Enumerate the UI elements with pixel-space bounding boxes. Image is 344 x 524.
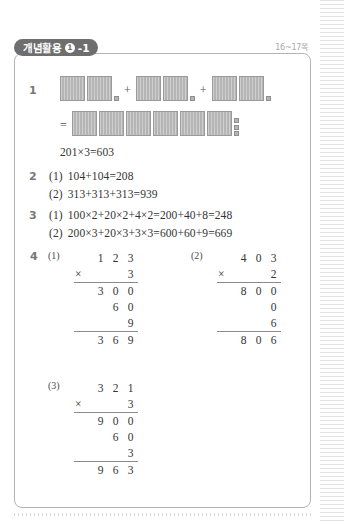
product-row: 3 6 9	[74, 332, 138, 349]
partial-product-row: 9 0 0	[74, 413, 138, 430]
problem-2-item-1: (1) 104+104=208	[49, 170, 134, 182]
problem-4-item-2-label: (2)	[191, 250, 203, 261]
operator-cell	[74, 250, 93, 266]
digit: 3	[123, 462, 138, 479]
hundred-block	[72, 111, 97, 136]
section-tab-label: 개념활용	[23, 40, 62, 55]
result-block-group	[72, 111, 239, 136]
multiplicand-row: 3 2 1	[74, 380, 138, 396]
digit: 3	[123, 396, 138, 413]
digit: 0	[108, 283, 123, 300]
problem-4-item-1-label: (1)	[48, 250, 60, 261]
multiply-operator: ×	[74, 396, 93, 413]
digit: 0	[251, 332, 266, 349]
digit: 0	[108, 413, 123, 430]
digit: 1	[93, 250, 108, 266]
partial-product-row: 3	[74, 445, 138, 462]
partial-product-row: 6 0	[74, 299, 138, 315]
problem-3-item-2-label: (2)	[49, 227, 63, 239]
digit: 0	[251, 283, 266, 300]
partial-product-row: 8 0 0	[217, 283, 281, 300]
problem-2-item-1-label: (1)	[49, 170, 63, 182]
hundred-block	[153, 111, 178, 136]
digit: 0	[123, 299, 138, 315]
product-row: 8 0 6	[217, 332, 281, 349]
digit	[251, 299, 266, 315]
vertical-multiplication-2: 4 0 3 × 2 8 0 0	[217, 250, 281, 348]
answer-panel: 1 + + =	[14, 53, 311, 508]
problem-1-equation: 201×3=603	[60, 146, 114, 158]
digit: 8	[236, 332, 251, 349]
page-reference: 16~17쪽	[275, 41, 308, 52]
digit: 0	[251, 250, 266, 266]
digit: 9	[93, 413, 108, 430]
one-block	[266, 96, 271, 101]
digit: 6	[108, 462, 123, 479]
problem-3-item-2: (2) 200×3+20×3+3×3=600+60+9=669	[49, 227, 232, 239]
hundred-block	[239, 76, 264, 101]
digit: 6	[108, 332, 123, 349]
hundred-block	[180, 111, 205, 136]
plus-operator-2: +	[195, 83, 212, 101]
problem-2-item-2-text: 313+313+313=939	[68, 188, 158, 200]
digit	[108, 266, 123, 283]
digit: 0	[266, 299, 281, 315]
digit: 3	[93, 332, 108, 349]
problem-4-item-2: (2) 4 0 3 × 2 8 0 0	[217, 250, 281, 348]
multiplicand-row: 1 2 3	[74, 250, 138, 266]
problem-4-item-1: 4 (1) 1 2 3 × 3 3 0	[74, 250, 138, 348]
problem-3-item-1-text: 100×2+20×2+4×2=200+40+8=248	[68, 209, 233, 221]
digit: 3	[93, 283, 108, 300]
digit: 4	[236, 250, 251, 266]
digit: 3	[93, 380, 108, 396]
digit: 6	[266, 315, 281, 332]
hundred-block	[126, 111, 151, 136]
digit	[251, 266, 266, 283]
vertical-multiplication-3: 3 2 1 × 3 9 0 0	[74, 380, 138, 478]
one-block	[234, 118, 239, 123]
digit: 3	[123, 250, 138, 266]
partial-product-row: 6 0	[74, 429, 138, 445]
problem-3-item-2-text: 200×3+20×3+3×3=600+60+9=669	[68, 227, 233, 239]
hundred-block	[136, 76, 161, 101]
problem-2-item-1-text: 104+104=208	[68, 170, 134, 182]
plus-operator-1: +	[119, 83, 136, 101]
digit	[93, 299, 108, 315]
digit	[93, 266, 108, 283]
digit	[93, 315, 108, 332]
one-block	[234, 125, 239, 130]
problem-4-number: 4	[30, 250, 38, 263]
digit	[108, 396, 123, 413]
problem-2-number: 2	[29, 170, 37, 183]
digit	[236, 299, 251, 315]
problem-1-number: 1	[29, 84, 37, 97]
digit	[93, 396, 108, 413]
multiply-operator: ×	[217, 266, 236, 283]
digit: 3	[266, 250, 281, 266]
block-group-3	[212, 76, 271, 101]
digit	[108, 445, 123, 462]
digit	[93, 445, 108, 462]
section-number-badge-icon: 1	[65, 43, 75, 53]
hundred-block	[212, 76, 237, 101]
hundred-block	[87, 76, 112, 101]
hundred-block	[207, 111, 232, 136]
digit: 2	[266, 266, 281, 283]
digit	[251, 315, 266, 332]
digit: 9	[93, 462, 108, 479]
hundred-block	[99, 111, 124, 136]
block-group-2	[136, 76, 195, 101]
partial-product-row: 0	[217, 299, 281, 315]
digit: 2	[108, 380, 123, 396]
one-block-stack	[234, 118, 239, 136]
problem-3-item-1-label: (1)	[49, 209, 63, 221]
digit	[236, 266, 251, 283]
partial-product-row: 3 0 0	[74, 283, 138, 300]
problem-1-block-diagram-addends: + +	[60, 76, 271, 101]
digit: 9	[123, 315, 138, 332]
digit	[236, 315, 251, 332]
digit	[108, 315, 123, 332]
multiplier-row: × 3	[74, 396, 138, 413]
digit: 0	[266, 283, 281, 300]
hundred-block	[163, 76, 188, 101]
